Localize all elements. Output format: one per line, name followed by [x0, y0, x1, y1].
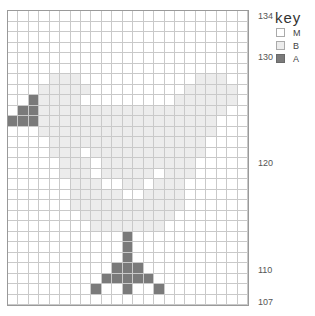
grid-cell [238, 116, 248, 127]
grid-cell [39, 169, 49, 180]
grid-cell [133, 43, 143, 54]
grid-cell [185, 74, 195, 85]
grid-cell [50, 85, 60, 96]
grid-cell [206, 22, 216, 33]
grid-cell [154, 169, 164, 180]
grid-cell [50, 200, 60, 211]
grid-cell [217, 221, 227, 232]
grid-cell [175, 11, 185, 22]
grid-cell [227, 253, 237, 264]
grid-cell [123, 11, 133, 22]
grid-cell [18, 137, 28, 148]
grid-cell [133, 221, 143, 232]
grid-cell [227, 179, 237, 190]
grid-cell [81, 253, 91, 264]
grid-cell [206, 43, 216, 54]
grid-cell [123, 127, 133, 138]
grid-cell [112, 274, 122, 285]
grid-cell [102, 22, 112, 33]
grid-cell [102, 253, 112, 264]
grid-cell [123, 116, 133, 127]
grid-cell [133, 190, 143, 201]
grid-cell [144, 127, 154, 138]
grid-cell [144, 284, 154, 295]
grid-cell [8, 64, 18, 75]
grid-cell [144, 22, 154, 33]
grid-cell [185, 85, 195, 96]
swatch-white-icon [276, 28, 285, 37]
grid-cell [154, 295, 164, 306]
grid-cell [50, 232, 60, 243]
grid-cell [175, 64, 185, 75]
grid-cell [217, 53, 227, 64]
grid-cell [91, 32, 101, 43]
grid-cell [238, 85, 248, 96]
grid-cell [133, 242, 143, 253]
grid-cell [60, 200, 70, 211]
grid-cell [8, 106, 18, 117]
grid-cell [154, 11, 164, 22]
grid-cell [102, 263, 112, 274]
grid-cell [175, 284, 185, 295]
grid-cell [60, 263, 70, 274]
grid-cell [91, 158, 101, 169]
grid-cell [123, 137, 133, 148]
grid-cell [39, 263, 49, 274]
grid-cell [29, 22, 39, 33]
grid-cell [18, 53, 28, 64]
grid-cell [18, 179, 28, 190]
grid-cell [29, 116, 39, 127]
grid-cell [154, 232, 164, 243]
grid-cell [39, 43, 49, 54]
grid-cell [71, 43, 81, 54]
grid-cell [91, 211, 101, 222]
grid-cell [238, 137, 248, 148]
grid-cell [102, 242, 112, 253]
grid-cell [144, 190, 154, 201]
grid-cell [50, 169, 60, 180]
grid-cell [123, 253, 133, 264]
grid-cell [71, 64, 81, 75]
grid-cell [217, 169, 227, 180]
grid-cell [165, 22, 175, 33]
grid-cell [238, 53, 248, 64]
grid-cell [60, 295, 70, 306]
grid-cell [60, 179, 70, 190]
grid-cell [102, 221, 112, 232]
grid-cell [8, 200, 18, 211]
grid-cell [227, 53, 237, 64]
grid-cell [29, 32, 39, 43]
grid-cell [144, 158, 154, 169]
legend: key M B A [275, 10, 301, 65]
grid-cell [81, 95, 91, 106]
grid-cell [227, 221, 237, 232]
grid-cell [175, 43, 185, 54]
grid-cell [217, 22, 227, 33]
grid-cell [227, 242, 237, 253]
grid-cell [206, 53, 216, 64]
grid-cell [60, 169, 70, 180]
grid-cell [50, 116, 60, 127]
grid-cell [39, 232, 49, 243]
grid-cell [133, 137, 143, 148]
grid-cell [29, 253, 39, 264]
grid-cell [196, 116, 206, 127]
grid-cell [112, 221, 122, 232]
grid-cell [18, 232, 28, 243]
grid-cell [154, 74, 164, 85]
grid-cell [154, 221, 164, 232]
grid-cell [18, 263, 28, 274]
grid-cell [50, 190, 60, 201]
grid-cell [8, 53, 18, 64]
grid-cell [217, 295, 227, 306]
grid-cell [8, 43, 18, 54]
grid-cell [238, 95, 248, 106]
grid-cell [29, 53, 39, 64]
grid-cell [8, 32, 18, 43]
grid-cell [81, 232, 91, 243]
grid-cell [71, 232, 81, 243]
grid-cell [81, 221, 91, 232]
grid-cell [8, 158, 18, 169]
grid-cell [81, 295, 91, 306]
grid-cell [50, 64, 60, 75]
